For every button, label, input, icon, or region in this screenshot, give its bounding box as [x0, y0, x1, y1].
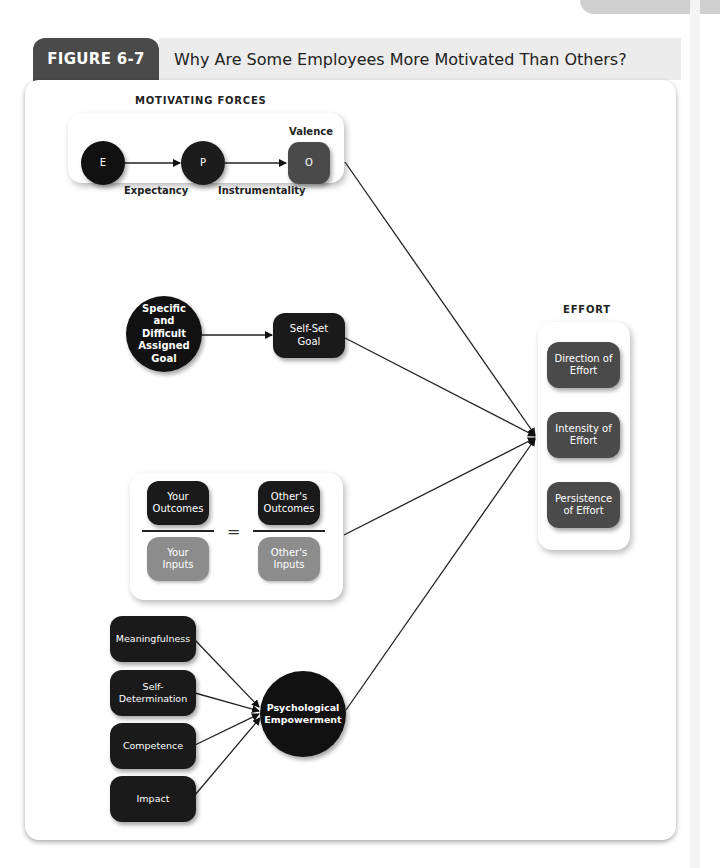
outcome-node-o: O: [288, 142, 330, 184]
persistence-of-effort-label: Persistence of Effort: [549, 493, 618, 518]
assigned-goal-label: Specific and Difficult Assigned Goal: [134, 303, 194, 366]
impact-label: Impact: [137, 793, 170, 805]
others-inputs-node: Other's Inputs: [258, 537, 320, 581]
your-fraction-line: [142, 530, 214, 532]
valence-label: Valence: [289, 126, 333, 137]
intensity-of-effort-label: Intensity of Effort: [555, 423, 612, 448]
your-outcomes-node: Your Outcomes: [147, 481, 209, 525]
expectancy-label: Expectancy: [124, 185, 188, 196]
instrumentality-label: Instrumentality: [218, 185, 306, 196]
others-inputs-label: Other's Inputs: [266, 547, 312, 572]
performance-node-p: P: [181, 141, 225, 185]
others-fraction-line: [253, 530, 325, 532]
others-outcomes-label: Other's Outcomes: [262, 491, 316, 516]
meaningfulness-label: Meaningfulness: [116, 633, 190, 645]
node-p-label: P: [200, 157, 206, 170]
others-outcomes-node: Other's Outcomes: [258, 481, 320, 525]
effort-direction-node: Direction of Effort: [547, 342, 620, 388]
empowerment-factor-competence: Competence: [110, 723, 196, 769]
your-inputs-label: Your Inputs: [157, 547, 199, 572]
competence-label: Competence: [123, 740, 183, 752]
psychological-empowerment-label: Psychological Empowerment: [264, 702, 342, 726]
effort-persistence-node: Persistence of Effort: [547, 482, 620, 528]
self-set-goal-node: Self-Set Goal: [273, 313, 345, 358]
empowerment-factor-self-determination: Self-Determination: [110, 670, 196, 716]
node-e-label: E: [100, 157, 106, 170]
self-determination-label: Self-Determination: [116, 681, 190, 705]
empowerment-factor-meaningfulness: Meaningfulness: [110, 616, 196, 662]
effort-intensity-node: Intensity of Effort: [547, 412, 620, 458]
direction-of-effort-label: Direction of Effort: [553, 353, 614, 378]
expectancy-node-e: E: [81, 141, 125, 185]
empowerment-factor-impact: Impact: [110, 776, 196, 822]
self-set-goal-label: Self-Set Goal: [287, 323, 331, 348]
psychological-empowerment-node: Psychological Empowerment: [260, 671, 346, 757]
assigned-goal-node: Specific and Difficult Assigned Goal: [126, 296, 202, 372]
equals-sign: =: [227, 522, 240, 541]
node-o-label: O: [305, 157, 313, 170]
your-outcomes-label: Your Outcomes: [151, 491, 205, 516]
your-inputs-node: Your Inputs: [147, 537, 209, 581]
